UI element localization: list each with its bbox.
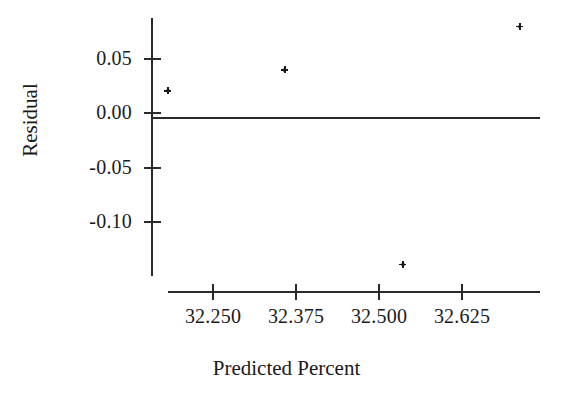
y-tick-label: -0.05 — [46, 157, 132, 177]
y-tick-mark — [144, 112, 161, 114]
data-point-marker — [516, 23, 523, 30]
x-tick-mark — [461, 284, 463, 300]
y-tick-label: 0.00 — [46, 102, 132, 122]
data-point-core — [401, 263, 404, 266]
x-axis-spine — [168, 291, 540, 293]
x-tick-mark — [212, 284, 214, 300]
y-tick-mark — [144, 167, 161, 169]
y-tick-mark — [144, 58, 161, 60]
data-point-core — [166, 89, 169, 92]
x-axis-title: Predicted Percent — [0, 356, 573, 380]
data-point-marker — [399, 261, 406, 268]
residual-plot-figure: 0.050.00-0.05-0.10 32.25032.37532.50032.… — [0, 0, 573, 398]
y-tick-label: 0.05 — [46, 48, 132, 68]
data-point-core — [283, 68, 286, 71]
y-tick-label: -0.10 — [46, 211, 132, 231]
zero-reference-line — [152, 117, 540, 119]
y-tick-mark — [144, 221, 161, 223]
data-point-core — [518, 25, 521, 28]
data-point-marker — [281, 66, 288, 73]
x-tick-mark — [295, 284, 297, 300]
data-point-marker — [164, 87, 171, 94]
y-axis-spine — [151, 18, 153, 276]
y-axis-title: Residual — [18, 30, 42, 210]
x-tick-label: 32.625 — [412, 305, 512, 327]
x-tick-mark — [378, 284, 380, 300]
